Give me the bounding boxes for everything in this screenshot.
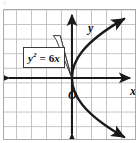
origin-label: O [68, 88, 77, 103]
graph-drawing [4, 10, 135, 139]
y-axis-label: y [88, 21, 93, 36]
problem-number-artifact: 6 [3, 0, 17, 7]
equation-callout: y2 = 6x [23, 47, 65, 68]
x-axis-label: x [130, 84, 136, 99]
equation-operator: = [39, 52, 45, 64]
equation-variable: x [54, 52, 60, 64]
equation-text: y2 = 6x [28, 52, 60, 64]
graph-plate: y2 = 6x y x O [3, 9, 136, 140]
parabola-lower-branch [72, 78, 124, 137]
parabola-figure: 6 y2 = 6x y x O [0, 0, 139, 143]
parabola-upper-branch [72, 19, 124, 78]
